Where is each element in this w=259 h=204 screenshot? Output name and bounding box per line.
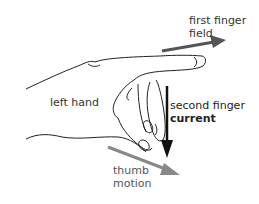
first-finger-label-line2: field [189, 27, 246, 40]
second-finger-label: second finger current [170, 99, 245, 125]
thumb-label-line2: motion [113, 177, 152, 190]
thumb-label: thumb motion [113, 164, 152, 190]
second-finger-label-line1: second finger [170, 99, 245, 112]
thumb-label-line1: thumb [113, 164, 152, 177]
first-finger-label-line1: first finger [189, 14, 246, 27]
hand-label: left hand [50, 96, 99, 109]
first-finger-label: first finger field [189, 14, 246, 40]
second-finger-label-line2: current [170, 112, 245, 125]
